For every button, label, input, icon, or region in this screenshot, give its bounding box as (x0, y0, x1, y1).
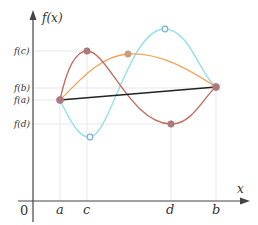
axes (18, 10, 250, 222)
x-label-b: b (212, 202, 220, 217)
x-label-c: c (83, 202, 91, 217)
y-label-fb: f(b) (13, 83, 31, 93)
cyan-max-point (162, 26, 168, 32)
y-axis-arrow-icon (30, 10, 37, 20)
y-label-fd: f(d) (13, 119, 31, 129)
cyan-min-point (87, 134, 93, 140)
x-axis-label: x (237, 182, 244, 196)
secant-line (60, 87, 216, 100)
y-label-fa: f(a) (13, 95, 30, 105)
x-axis-arrow-icon (240, 198, 250, 205)
plot-canvas: f(x) x 0 f(c) f(b) f(a) f(d) a c d b (0, 0, 258, 225)
y-axis-label: f(x) (41, 11, 63, 25)
cyan-curve (60, 29, 216, 137)
y-label-fc: f(c) (13, 46, 30, 56)
x-label-d: d (166, 202, 174, 217)
orange-max-point (125, 51, 131, 57)
origin-label: 0 (20, 203, 28, 218)
point-d-min (168, 121, 174, 127)
point-a (57, 97, 64, 104)
point-c-max (84, 48, 90, 54)
x-label-a: a (56, 202, 64, 217)
guide-lines (33, 51, 216, 201)
mean-value-theorem-diagram: f(x) x 0 f(c) f(b) f(a) f(d) a c d b (0, 0, 258, 225)
point-b (213, 84, 220, 91)
